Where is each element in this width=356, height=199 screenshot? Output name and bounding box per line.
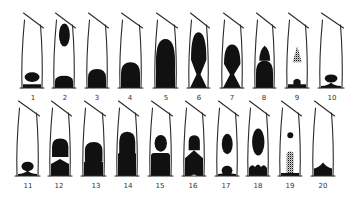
fill-region <box>325 74 338 82</box>
vial-cap <box>289 13 309 28</box>
vial-label: 20 <box>319 182 328 190</box>
fill-region <box>118 149 136 176</box>
vial-label: 17 <box>222 182 231 190</box>
fill-region <box>185 150 203 176</box>
vial-wall-left <box>17 108 20 176</box>
vial-cap <box>219 101 239 116</box>
fill-region <box>256 61 273 88</box>
vial-wall-left <box>54 20 57 88</box>
vial-figure: 1234567891011121314151617181920 <box>0 0 356 199</box>
vial-wall-left <box>280 108 283 176</box>
vial-label: 14 <box>124 182 133 190</box>
vial-14: 14 <box>115 101 139 190</box>
vial-wall-right <box>37 113 39 176</box>
fill-region <box>151 153 170 176</box>
vial-cap <box>152 101 173 116</box>
fill-region <box>51 159 69 176</box>
vial-cap <box>315 101 335 116</box>
vial-label: 8 <box>262 94 266 102</box>
fill-region <box>121 62 140 88</box>
vial-cap <box>52 101 72 116</box>
vial-18: 18 <box>246 101 270 190</box>
vial-cap <box>186 101 206 116</box>
vial-wall-left <box>320 20 323 88</box>
fill-region <box>222 134 233 154</box>
vial-16: 16 <box>182 101 206 190</box>
vial-wall-left <box>22 20 25 88</box>
fill-region <box>287 132 293 138</box>
vial-cap <box>191 13 210 28</box>
fill-region <box>259 46 270 61</box>
vial-wall-right <box>306 25 308 88</box>
fill-region <box>155 135 167 152</box>
fill-region <box>23 84 41 88</box>
vial-cap <box>19 101 40 116</box>
vial-9: 9 <box>285 13 309 102</box>
fill-region <box>25 72 40 82</box>
fill-region <box>88 69 106 88</box>
fill-region <box>223 44 241 88</box>
vial-wall-left <box>313 108 316 176</box>
vial-7: 7 <box>220 13 244 102</box>
stippled-region <box>287 151 294 176</box>
vial-label: 9 <box>295 94 299 102</box>
vial-label: 12 <box>55 182 64 190</box>
fill-region <box>288 84 306 88</box>
vial-cap <box>119 101 139 116</box>
vial-6: 6 <box>187 13 210 102</box>
vial-2: 2 <box>52 13 76 102</box>
vial-cap <box>250 101 270 116</box>
vial-cap <box>282 101 302 116</box>
vial-label: 13 <box>92 182 101 190</box>
vial-13: 13 <box>81 101 106 190</box>
vial-label: 19 <box>286 182 295 190</box>
vial-label: 7 <box>230 94 234 102</box>
vial-wall-right <box>341 25 343 88</box>
vial-19: 19 <box>278 101 302 190</box>
vial-8: 8 <box>253 13 276 102</box>
vial-11: 11 <box>15 101 40 190</box>
vial-wall-left <box>217 108 220 176</box>
fill-region <box>55 76 73 88</box>
vial-label: 5 <box>164 94 168 102</box>
fill-region <box>190 32 207 88</box>
vial-12: 12 <box>48 101 72 190</box>
vial-5: 5 <box>153 13 178 102</box>
fill-region <box>218 171 236 176</box>
vial-wall-right <box>73 25 75 88</box>
vial-wall-left <box>287 20 290 88</box>
fill-region <box>21 162 33 172</box>
vial-label: 3 <box>95 94 99 102</box>
vial-wall-right <box>241 25 243 88</box>
fill-region <box>321 83 341 88</box>
fill-region <box>59 23 70 46</box>
vial-label: 18 <box>254 182 263 190</box>
vial-label: 11 <box>24 182 33 190</box>
fill-region <box>189 135 200 150</box>
vial-cap <box>89 13 109 28</box>
vial-cap <box>24 13 44 28</box>
vial-wall-right <box>332 113 334 176</box>
fill-region <box>18 171 37 176</box>
stippled-region <box>293 46 302 62</box>
fill-region <box>249 165 267 176</box>
vial-label: 1 <box>31 94 35 102</box>
fill-region <box>314 162 332 176</box>
vial-cap <box>157 13 178 28</box>
vial-cap <box>122 13 143 28</box>
vial-cap <box>224 13 244 28</box>
vial-cap <box>85 101 106 116</box>
vial-wall-right <box>236 113 238 176</box>
vial-label: 4 <box>128 94 133 102</box>
vial-cap <box>322 13 344 28</box>
fill-region <box>52 139 68 157</box>
vial-17: 17 <box>215 101 239 190</box>
vial-10: 10 <box>318 13 344 102</box>
vial-label: 10 <box>328 94 337 102</box>
fill-region <box>156 39 175 88</box>
vial-3: 3 <box>85 13 109 102</box>
vial-label: 15 <box>156 182 165 190</box>
vial-wall-right <box>299 113 301 176</box>
vial-wall-left <box>248 108 251 176</box>
vial-cap <box>257 13 276 28</box>
